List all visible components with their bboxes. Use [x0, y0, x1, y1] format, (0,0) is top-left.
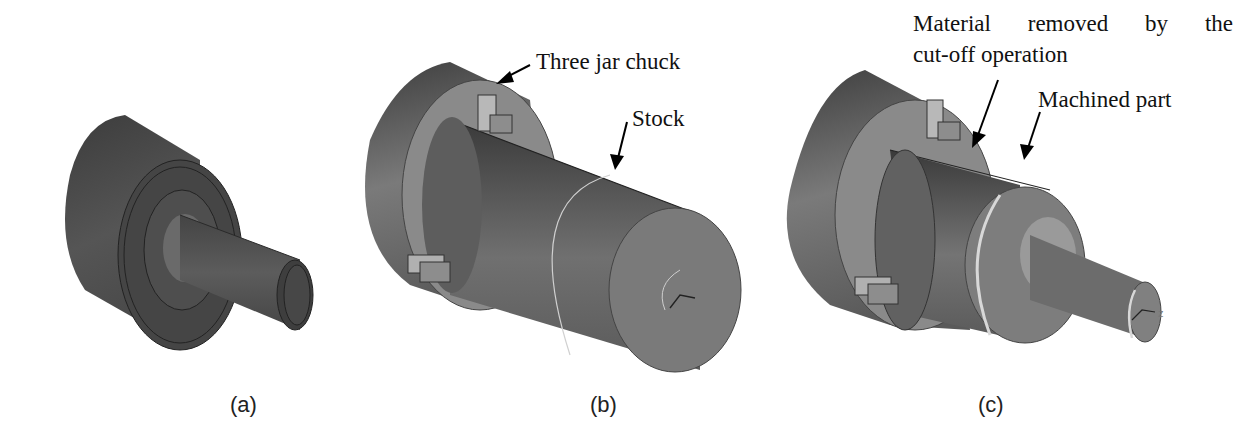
- chuck-label: Three jar chuck: [536, 49, 680, 75]
- machined-part-label: Machined part: [1038, 87, 1171, 113]
- stock-label: Stock: [632, 106, 684, 132]
- caption-a: (a): [230, 392, 257, 418]
- cutoff-label-line1: Material removed by the: [913, 11, 1233, 37]
- panel-b: Three jar chuck Stock (b): [340, 0, 760, 434]
- finished-part-drawing: [0, 0, 380, 434]
- caption-c: (c): [978, 392, 1004, 418]
- cutoff-label-line2: cut-off operation: [913, 42, 1068, 68]
- panel-a: (a): [0, 0, 380, 434]
- panel-c: Material removed by the cut-off operatio…: [760, 0, 1240, 434]
- lathe-figure: (a): [0, 0, 1240, 434]
- axis-z-label: z: [1158, 300, 1164, 326]
- caption-b: (b): [590, 392, 617, 418]
